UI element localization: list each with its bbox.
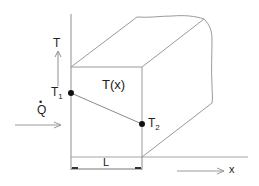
x-axis-label: x: [229, 164, 235, 175]
back-break-top-edge: [137, 16, 204, 19]
l-label: L: [103, 157, 109, 168]
t2-label-sub: 2: [155, 123, 159, 132]
diagram-graphics: [0, 0, 259, 186]
back-break-right-edge: [204, 19, 212, 103]
heat-conduction-diagram: T T1 T2 T(x) • Q L x: [0, 0, 259, 186]
t-axis-label: T: [53, 37, 60, 49]
t1-label-sub: 1: [58, 92, 62, 101]
t1-point: [68, 90, 74, 96]
temperature-profile-line: [71, 93, 142, 124]
top-left-depth-edge: [71, 17, 137, 67]
q-label: Q: [37, 104, 46, 116]
t1-label: T1: [51, 86, 63, 101]
tx-label: T(x): [102, 78, 125, 91]
t2-point: [139, 121, 145, 127]
top-right-depth-edge: [142, 19, 204, 67]
t2-label: T2: [148, 117, 160, 132]
